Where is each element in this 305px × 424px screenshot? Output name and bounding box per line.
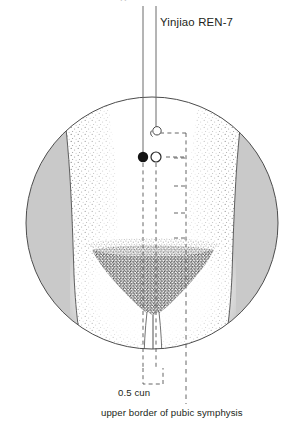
cropped-figure-letter: B: [120, 0, 127, 1]
symphysis-landmark-label: upper border of pubic symphysis: [101, 408, 243, 418]
circular-inset: [26, 77, 278, 372]
cun-bracket: [143, 368, 163, 384]
labial-cleft: [144, 303, 162, 364]
abdomen-acupoint-illustration: [0, 0, 305, 424]
acupoint-label: Yinjiao REN-7: [160, 17, 233, 28]
figure-canvas: B Yinjiao REN-7 0.5 cun upper border of …: [0, 0, 305, 424]
cun-measure-label: 0.5 cun: [118, 388, 150, 398]
acupoint-filled[interactable]: [138, 152, 148, 162]
acupoint-open[interactable]: [151, 152, 161, 162]
